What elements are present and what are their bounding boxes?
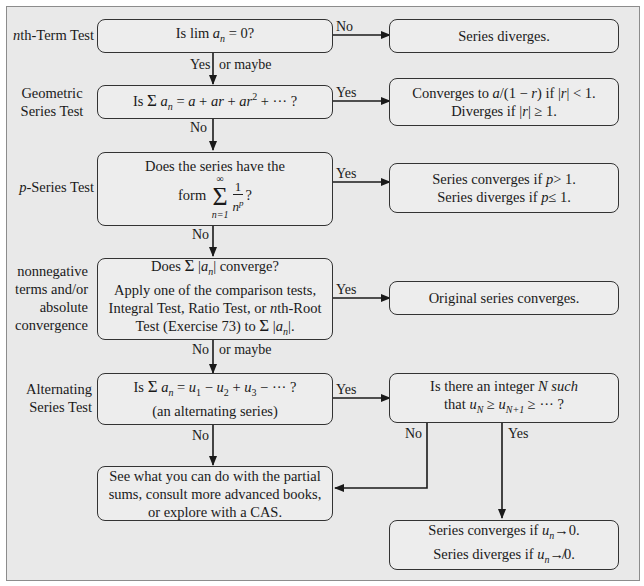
p-series-yes-label: Yes [336,166,356,182]
followup-question-line1: Is there an integer N such [430,377,578,395]
absolute-question-line2: Apply one of the comparison tests, [114,281,316,299]
alternating-result-box: Series converges if un→0. Series diverge… [389,520,619,570]
alternating-question-line2: (an alternating series) [152,402,278,420]
nth-term-no-label: No [336,19,353,35]
p-series-result-box: Series converges if p> 1. Series diverge… [389,163,619,213]
p-series-diverges-text: Series diverges if p≤ 1. [437,188,571,206]
absolute-question-box: Does Σ |an| converge? Apply one of the c… [97,258,333,340]
geometric-result-box: Converges to a/(1 − r) if |r| < 1. Diver… [389,78,619,126]
nth-term-or-maybe-label: or maybe [219,57,271,73]
fallback-line2: sums, consult more advanced books, [109,485,322,503]
alternating-yes-label: Yes [336,382,356,398]
original-converges-box: Original series converges. [389,281,619,315]
original-converges-text: Original series converges. [429,289,580,307]
p-series-question-box: Does the series have the form ∞Σn=11np? [97,152,333,226]
alternating-question-box: Is Σ an = u1 − u2 + u3 − ··· ? (an alter… [97,373,333,425]
absolute-yes-label: Yes [336,282,356,298]
geometric-no-label: No [190,120,207,136]
nth-term-question: Is lim an = 0? [176,24,254,48]
p-series-question-formula: form ∞Σn=11np? [178,173,252,221]
fallback-line3: or explore with a CAS. [148,503,282,521]
series-diverges-box: Series diverges. [389,19,619,53]
absolute-question-line4: Test (Exercise 73) to Σ |an|. [135,317,294,341]
geometric-question-box: Is Σ an = a + ar + ar2 + ··· ? [97,85,333,119]
nth-term-question-box: Is lim an = 0? [97,19,333,53]
p-series-no-label: No [192,227,209,243]
geometric-diverges-text: Diverges if |r| ≥ 1. [451,102,557,120]
followup-yes-label: Yes [508,426,528,442]
followup-question-line2: that uN ≥ uN+1 ≥ ··· ? [444,395,564,419]
fallback-box: See what you can do with the partial sum… [97,466,333,521]
nth-term-test-label: nth-Term Test [12,26,94,44]
geometric-question: Is Σ an = a + ar + ar2 + ··· ? [133,88,297,116]
absolute-convergence-label: nonnegative terms and/or absolute conver… [8,262,88,334]
alternating-converges-text: Series converges if un→0. [428,521,579,545]
absolute-no-label: No [192,342,209,358]
geometric-yes-label: Yes [336,85,356,101]
fallback-line1: See what you can do with the partial [109,467,320,485]
geometric-converges-text: Converges to a/(1 − r) if |r| < 1. [412,84,595,102]
p-series-test-label: p-Series Test [12,178,94,196]
followup-no-label: No [405,426,422,442]
alternating-no-label: No [192,428,209,444]
nth-term-yes-label: Yes [190,57,210,73]
absolute-question-line3: Integral Test, Ratio Test, or nth-Root [109,299,322,317]
p-series-converges-text: Series converges if p> 1. [432,170,576,188]
alternating-series-test-label: Alternating Series Test [12,380,92,416]
absolute-or-maybe-label: or maybe [219,342,271,358]
alternating-diverges-text: Series diverges if un↛0. [433,545,575,569]
followup-question-box: Is there an integer N such that uN ≥ uN+… [389,373,619,423]
series-diverges-text: Series diverges. [458,27,550,45]
alternating-question-line1: Is Σ an = u1 − u2 + u3 − ··· ? [134,378,297,402]
absolute-question-line1: Does Σ |an| converge? [151,257,279,281]
geometric-series-test-label: Geometric Series Test [12,84,92,120]
